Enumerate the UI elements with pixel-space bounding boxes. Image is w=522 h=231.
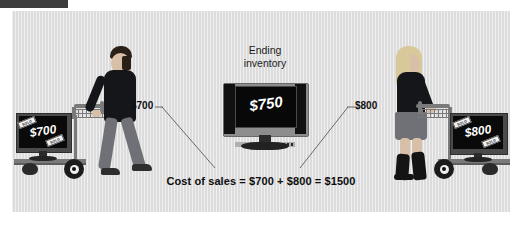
left-tv-base — [29, 156, 57, 161]
man-jacket — [104, 70, 136, 122]
ending-inventory-label-line1: Ending — [225, 44, 305, 57]
left-cart-caster — [22, 163, 38, 175]
right-cart-caster — [482, 163, 498, 175]
top-dark-bar — [0, 0, 68, 8]
label-cost-700: $700 — [131, 100, 153, 111]
monitor-base — [241, 142, 289, 150]
man-leg-back — [98, 117, 118, 170]
ending-inventory-label: Ending inventory — [225, 44, 305, 69]
label-cost-800: $800 — [355, 100, 377, 111]
man-shoe-front — [132, 164, 152, 171]
left-cart-tv: $700 SOLD SOLD — [16, 113, 72, 163]
ending-inventory-label-line2: inventory — [225, 57, 305, 70]
man-figure — [90, 46, 162, 181]
ending-inventory-monitor: $750 — [223, 83, 307, 151]
man-hand — [92, 110, 101, 117]
man-shoe-back — [101, 168, 120, 175]
right-tv-base — [464, 157, 492, 162]
cart-upright-post — [74, 115, 77, 163]
right-cart-wheel — [434, 159, 454, 179]
right-cart-basket-grid — [418, 109, 450, 118]
right-cart-tv: $800 SOLD SOLD — [450, 113, 508, 163]
cost-of-sales-caption: Cost of sales = $700 + $800 = $1500 — [166, 175, 355, 187]
right-shopping-cart: $800 SOLD SOLD — [400, 97, 510, 187]
left-cart-wheel — [64, 159, 84, 179]
monitor-screen: $750 — [235, 86, 297, 128]
man-sideburn — [122, 56, 131, 70]
monitor-side-panel-left — [224, 84, 235, 134]
monitor-price-value: $750 — [235, 91, 297, 116]
